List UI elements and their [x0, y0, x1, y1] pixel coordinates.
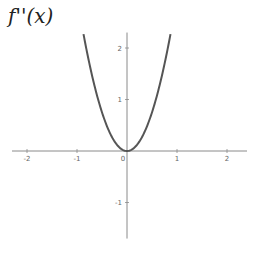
plot-area: -2-1012-112 [0, 0, 256, 260]
x-tick-label: 2 [225, 155, 229, 163]
y-tick-label: 2 [118, 45, 122, 53]
y-tick-label: 1 [118, 96, 122, 104]
x-tick-label: -2 [24, 155, 31, 163]
y-tick-label: -1 [115, 199, 122, 207]
ticks: -2-1012-112 [24, 45, 230, 208]
x-tick-label: 1 [175, 155, 179, 163]
x-tick-label: 0 [121, 155, 125, 163]
axes [12, 33, 247, 239]
x-tick-label: -1 [74, 155, 81, 163]
